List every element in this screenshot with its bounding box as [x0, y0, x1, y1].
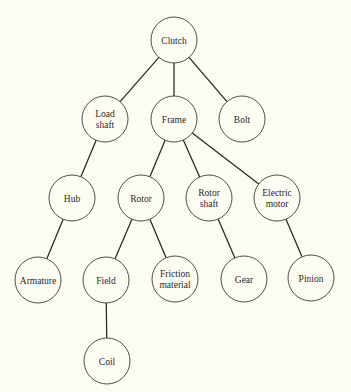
node-label: Frame [162, 115, 186, 125]
edge-clutch-to-bolt [189, 57, 227, 101]
node-bolt: Bolt [219, 96, 265, 142]
node-label: material [159, 280, 190, 290]
node-label: Clutch [161, 36, 187, 46]
node-label: Bolt [234, 115, 251, 125]
edge-rotor-to-friction-material [150, 219, 166, 258]
node-label: shaft [200, 199, 219, 209]
edge-rotor-to-field [115, 219, 132, 259]
node-circle [152, 256, 198, 302]
node-label: Rotor [198, 188, 220, 198]
node-gear: Gear [221, 256, 267, 302]
node-frame: Frame [151, 96, 197, 142]
node-label: Pinion [299, 274, 324, 284]
edge-rotor-shaft-to-gear [218, 219, 235, 258]
node-label: Gear [235, 275, 254, 285]
node-label: shaft [96, 120, 115, 130]
edge-hub-to-armature [47, 219, 63, 259]
tree-canvas: ClutchLoadshaftFrameBoltHubRotorRotorsha… [0, 0, 351, 392]
node-rotor: Rotor [118, 175, 164, 221]
edge-frame-to-rotor-shaft [183, 140, 199, 177]
node-friction-material: Frictionmaterial [152, 256, 198, 302]
node-label: motor [266, 199, 290, 209]
node-hub: Hub [49, 175, 95, 221]
node-label: Field [96, 276, 116, 286]
node-clutch: Clutch [151, 17, 197, 63]
clutch-assembly-tree-diagram: ClutchLoadshaftFrameBoltHubRotorRotorsha… [0, 0, 351, 392]
edge-load-shaft-to-hub [81, 140, 96, 177]
node-electric-motor: Electricmotor [254, 175, 300, 221]
edge-clutch-to-load-shaft [120, 57, 159, 101]
node-label: Coil [99, 357, 116, 367]
node-label: Friction [160, 269, 190, 279]
node-circle [82, 96, 128, 142]
node-pinion: Pinion [288, 255, 334, 301]
node-label: Rotor [130, 194, 152, 204]
node-label: Hub [64, 194, 81, 204]
node-circle [186, 175, 232, 221]
node-armature: Armature [15, 257, 61, 303]
node-label: Load [95, 109, 115, 119]
node-coil: Coil [84, 338, 130, 384]
node-label: Electric [262, 188, 292, 198]
node-rotor-shaft: Rotorshaft [186, 175, 232, 221]
edge-frame-to-rotor [150, 140, 165, 177]
node-circle [254, 175, 300, 221]
edge-electric-motor-to-pinion [286, 219, 302, 257]
node-label: Armature [20, 276, 56, 286]
node-field: Field [83, 257, 129, 303]
node-load-shaft: Loadshaft [82, 96, 128, 142]
